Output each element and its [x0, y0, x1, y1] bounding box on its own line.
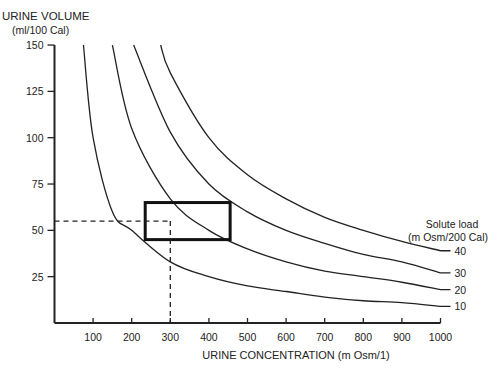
y-tick-label: 50 — [32, 224, 44, 236]
x-tick-label: 200 — [123, 331, 141, 343]
x-tick-label: 900 — [393, 331, 411, 343]
y-axis-title: URINE VOLUME — [2, 10, 90, 22]
curve-label-10: 10 — [455, 300, 467, 312]
y-tick-label: 75 — [32, 178, 44, 190]
solute-load-chart: URINE VOLUME (ml/100 Cal) 10020030040050… — [0, 0, 498, 380]
x-tick-label: 1000 — [429, 331, 453, 343]
x-tick-label: 100 — [84, 331, 102, 343]
curve-label-30: 30 — [455, 267, 467, 279]
x-tick-label: 500 — [239, 331, 257, 343]
x-tick-label: 600 — [277, 331, 295, 343]
x-tick-label: 300 — [162, 331, 180, 343]
legend-title: Solute load — [426, 218, 479, 230]
x-tick-label: 700 — [316, 331, 334, 343]
legend-units: (m Osm/200 Cal) — [408, 231, 488, 243]
y-axis-units: (ml/100 Cal) — [12, 24, 69, 36]
curve-solute-40 — [161, 45, 451, 251]
annotations — [55, 203, 231, 323]
curve-solute-10 — [83, 45, 450, 306]
y-tick-label: 100 — [26, 132, 44, 144]
solute-curves: 10203040 — [83, 45, 466, 312]
x-tick-label: 800 — [355, 331, 373, 343]
y-tick-label: 150 — [26, 39, 44, 51]
y-tick-label: 25 — [32, 271, 44, 283]
y-tick-label: 125 — [26, 85, 44, 97]
curve-label-40: 40 — [455, 245, 467, 257]
x-tick-label: 400 — [200, 331, 218, 343]
x-axis-title: URINE CONCENTRATION (m Osm/1) — [202, 349, 389, 361]
axes: 1002003004005006007008009001000255075100… — [26, 39, 452, 343]
curve-label-20: 20 — [455, 284, 467, 296]
curve-solute-20 — [112, 45, 450, 290]
